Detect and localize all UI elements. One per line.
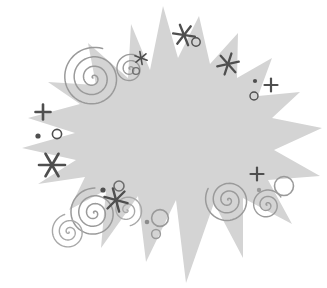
dot-bottom-right <box>257 188 261 192</box>
dot-bottom-center <box>145 220 150 225</box>
dot-right <box>253 79 257 83</box>
illustration-canvas <box>0 0 327 288</box>
dot-bottom-left <box>100 187 105 192</box>
dot-left <box>35 133 40 138</box>
starburst-illustration <box>0 0 327 288</box>
